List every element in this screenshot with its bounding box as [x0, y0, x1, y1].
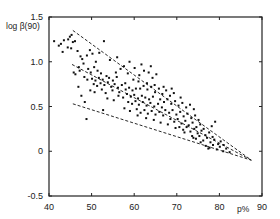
- data-point: [154, 91, 156, 93]
- y-axis: -0.500.51.01.5: [27, 12, 262, 201]
- data-point: [69, 36, 71, 38]
- data-point: [167, 123, 169, 125]
- data-point: [189, 131, 191, 133]
- data-point: [108, 77, 110, 79]
- data-point: [144, 97, 146, 99]
- data-point: [124, 82, 126, 84]
- data-point: [172, 109, 174, 111]
- data-point: [95, 61, 97, 63]
- data-point: [94, 80, 96, 82]
- data-point: [77, 86, 79, 88]
- data-point: [184, 120, 186, 122]
- data-point: [153, 106, 155, 108]
- data-point: [72, 41, 74, 43]
- data-point: [83, 76, 85, 78]
- data-point: [122, 97, 124, 99]
- data-point: [109, 59, 111, 61]
- data-point: [229, 151, 231, 153]
- data-point: [138, 104, 140, 106]
- data-point: [127, 72, 129, 74]
- data-point: [183, 115, 185, 117]
- data-point: [112, 80, 114, 82]
- data-point: [116, 56, 118, 58]
- data-point: [84, 101, 86, 103]
- x-tick-label: 90: [257, 202, 267, 212]
- data-point: [158, 111, 160, 113]
- data-point: [213, 139, 215, 141]
- data-point: [67, 38, 69, 40]
- data-point: [169, 95, 171, 97]
- data-point: [101, 88, 103, 90]
- data-point: [186, 126, 188, 128]
- data-point: [106, 97, 108, 99]
- data-point: [190, 117, 192, 119]
- data-point: [73, 71, 75, 73]
- upper-bound-line: [73, 30, 251, 160]
- data-point: [86, 54, 88, 56]
- x-tick-label: 70: [172, 202, 182, 212]
- data-point: [60, 43, 62, 45]
- data-point: [62, 51, 64, 53]
- data-point: [146, 105, 148, 107]
- data-point: [225, 148, 227, 150]
- data-point: [137, 114, 139, 116]
- data-point: [111, 89, 113, 91]
- data-point: [71, 34, 73, 36]
- data-point: [67, 46, 69, 48]
- data-point: [222, 150, 224, 152]
- data-point: [188, 124, 190, 126]
- data-point: [148, 98, 150, 100]
- data-point: [125, 88, 127, 90]
- data-point: [103, 40, 105, 42]
- data-point: [96, 85, 98, 87]
- data-point: [97, 70, 99, 72]
- data-point: [103, 84, 105, 86]
- data-point: [142, 101, 144, 103]
- x-axis-title: p%: [237, 204, 250, 214]
- y-tick-label: 0: [38, 146, 43, 156]
- data-point: [102, 109, 104, 111]
- data-point: [198, 135, 200, 137]
- scatter-chart: 405060708090 -0.500.51.01.5 log β(90) p%: [0, 0, 280, 219]
- data-point: [128, 87, 130, 89]
- data-points: [53, 34, 231, 153]
- data-point: [140, 112, 142, 114]
- data-point: [181, 102, 183, 104]
- data-point: [203, 128, 205, 130]
- data-point: [209, 141, 211, 143]
- data-point: [98, 52, 100, 54]
- data-point: [161, 106, 163, 108]
- data-point: [220, 140, 222, 142]
- data-point: [149, 102, 151, 104]
- data-point: [118, 91, 120, 93]
- data-point: [136, 108, 138, 110]
- data-point: [143, 70, 145, 72]
- data-point: [94, 91, 96, 93]
- data-point: [177, 118, 179, 120]
- data-point: [155, 114, 157, 116]
- data-point: [74, 73, 76, 75]
- data-point: [134, 67, 136, 69]
- data-point: [204, 134, 206, 136]
- data-point: [178, 126, 180, 128]
- data-point: [193, 108, 195, 110]
- data-point: [201, 130, 203, 132]
- data-point: [131, 103, 133, 105]
- data-point: [150, 65, 152, 67]
- data-point: [202, 140, 204, 142]
- data-point: [121, 84, 123, 86]
- data-point: [117, 95, 119, 97]
- reference-lines: [72, 30, 251, 160]
- data-point: [139, 88, 141, 90]
- data-point: [133, 94, 135, 96]
- data-point: [179, 111, 181, 113]
- data-point: [212, 136, 214, 138]
- data-point: [191, 135, 193, 137]
- data-point: [175, 114, 177, 116]
- data-point: [211, 125, 213, 127]
- data-point: [170, 103, 172, 105]
- data-point: [100, 72, 102, 74]
- data-point: [53, 40, 55, 42]
- data-point: [63, 39, 65, 41]
- data-point: [85, 118, 87, 120]
